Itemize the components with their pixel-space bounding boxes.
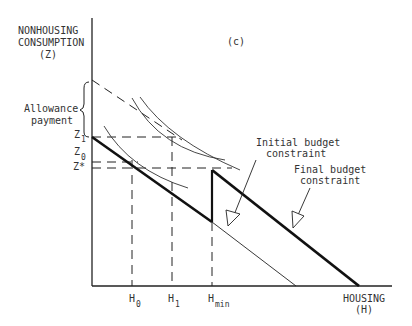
svg-text:Z: Z (74, 146, 80, 157)
initial-arrow-shaft (234, 160, 256, 215)
allowance-brace (80, 82, 89, 137)
svg-text:Z: Z (74, 129, 80, 140)
initial-budget-label-1: Initial budget (256, 137, 340, 148)
svg-text:Z*: Z* (73, 161, 85, 172)
indifference-curve-mid (132, 98, 225, 160)
svg-text:min: min (215, 300, 230, 309)
svg-text:1: 1 (81, 135, 86, 144)
dash-unsubsidized-line (92, 80, 182, 140)
initial-budget-thin (212, 222, 296, 286)
tick-hmin: H min (208, 293, 230, 309)
tick-h1: H 1 (168, 293, 180, 309)
indifference-curve-low (104, 126, 188, 188)
panel-label: (c) (227, 36, 245, 47)
final-budget-label-2: constraint (300, 175, 360, 186)
housing-allowance-diagram: NONHOUSING CONSUMPTION (Z) (c) Allowance… (0, 0, 412, 326)
tick-h0: H 0 (129, 293, 141, 309)
y-axis-title-1: NONHOUSING (18, 25, 78, 36)
allowance-label-2: payment (31, 115, 73, 126)
tick-zstar: Z* (73, 161, 85, 172)
final-budget-label-1: Final budget (294, 164, 366, 175)
x-axis-title-2: (H) (355, 304, 373, 315)
y-axis-title-2: CONSUMPTION (18, 37, 84, 48)
final-arrow-head (292, 211, 304, 228)
tick-z0: Z 0 (74, 146, 86, 162)
indifference-curve-high (140, 97, 240, 170)
svg-text:H: H (129, 293, 135, 304)
x-axis-title-1: HOUSING (343, 293, 385, 304)
final-budget-line (212, 170, 359, 286)
svg-text:0: 0 (136, 300, 141, 309)
allowance-label-1: Allowance (24, 103, 78, 114)
initial-budget-label-2: constraint (266, 148, 326, 159)
initial-arrow-head (226, 210, 240, 226)
initial-budget-thick (92, 137, 212, 222)
svg-text:H: H (168, 293, 174, 304)
y-axis-title-3: (Z) (39, 49, 57, 60)
svg-text:1: 1 (175, 300, 180, 309)
svg-text:H: H (208, 293, 214, 304)
final-arrow-shaft (298, 188, 310, 215)
